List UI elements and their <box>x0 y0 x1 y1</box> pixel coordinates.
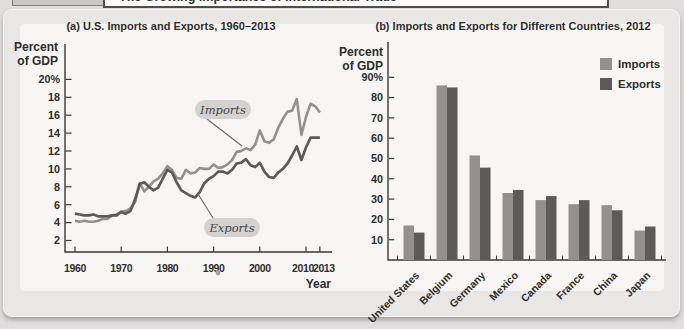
a-x-axis-label: Year <box>306 277 332 291</box>
country-label: Japan <box>622 269 652 299</box>
bar-imports-belgium <box>437 85 448 260</box>
legend-exports-swatch <box>600 78 612 90</box>
legend: Imports Exports <box>600 58 661 90</box>
bar-imports-china <box>602 205 613 260</box>
b-y-tick-label: 50 <box>371 152 383 164</box>
b-y-tick-label: 20 <box>371 213 383 225</box>
b-y-tick-label: 80 <box>371 91 383 103</box>
country-label: France <box>554 269 587 302</box>
country-label: Germany <box>447 269 488 310</box>
exports-line <box>75 138 320 217</box>
bar-exports-germany <box>480 168 491 260</box>
a-x-tick-label: 1970 <box>110 262 132 274</box>
bar-exports-china <box>612 210 623 260</box>
line-chart-us-imports-exports: Percent of GDP 20%1816141210864219601970… <box>0 36 342 298</box>
a-x-tick-label: 2013 <box>313 262 335 274</box>
a-y-tick-label: 16 <box>48 109 60 121</box>
bar-chart-countries-2012: Percent of GDP 90%8070605040302010United… <box>342 36 684 314</box>
a-y-tick-label: 20% <box>38 73 60 85</box>
b-axes <box>388 42 666 260</box>
b-y-tick-label: 10 <box>371 234 383 246</box>
exports-label-pill: Exports <box>204 218 260 237</box>
a-y-tick-label: 14 <box>48 127 60 139</box>
bar-imports-united-states <box>404 225 415 260</box>
panel-a-title: (a) U.S. Imports and Exports, 1960–2013 <box>0 20 342 32</box>
legend-exports-label: Exports <box>618 78 661 90</box>
a-y-axis-label-line1: Percent <box>14 40 58 54</box>
bar-imports-japan <box>635 231 646 260</box>
b-y-tick-label: 30 <box>371 193 383 205</box>
panel-b-title: (b) Imports and Exports for Different Co… <box>342 20 684 32</box>
a-axes <box>65 44 332 252</box>
figure-title: The Growing Importance of International … <box>119 0 397 4</box>
a-y-tick-label: 10 <box>48 163 60 175</box>
bar-imports-france <box>569 204 580 260</box>
b-y-tick-label: 60 <box>371 132 383 144</box>
a-x-tick-label: 1980 <box>157 262 179 274</box>
bar-exports-france <box>579 200 590 260</box>
exports-pill-text: Exports <box>208 221 254 235</box>
a-y-tick-label: 18 <box>48 91 60 103</box>
a-y-tick-label: 4 <box>54 216 60 228</box>
a-x-tick-label: 2000 <box>249 262 271 274</box>
a-y-tick-label: 6 <box>54 199 60 211</box>
bar-exports-united-states <box>414 233 425 260</box>
a-x-tick-label: 2010 <box>292 262 314 274</box>
a-x-tick-label: 1990 <box>203 262 225 274</box>
b-y-tick-label: 40 <box>371 173 383 185</box>
imports-label-pill: Imports <box>195 100 251 119</box>
a-plot-area: 20%1816141210864219601970198019902000201… <box>38 44 335 274</box>
a-x-tick-label: 1960 <box>64 262 86 274</box>
bar-imports-germany <box>470 155 481 260</box>
b-y-tick-label: 90% <box>361 71 383 83</box>
country-label: Canada <box>518 269 553 304</box>
figure-number-tab <box>12 0 104 6</box>
b-y-axis-label-line1: Percent <box>339 45 383 59</box>
imports-leader-line <box>207 119 242 146</box>
country-label: Mexico <box>487 269 521 303</box>
exports-leader-line <box>198 194 213 218</box>
country-label: China <box>590 269 619 298</box>
imports-line <box>75 99 320 222</box>
bar-exports-canada <box>546 196 557 260</box>
bar-exports-belgium <box>447 87 458 260</box>
legend-imports-swatch <box>600 58 612 70</box>
bar-imports-canada <box>536 200 547 260</box>
a-y-tick-label: 2 <box>54 234 60 246</box>
bar-exports-japan <box>645 227 656 260</box>
imports-pill-text: Imports <box>199 103 246 117</box>
figure-page: The Growing Importance of International … <box>0 0 684 329</box>
a-y-axis-label-line2: of GDP <box>17 54 58 68</box>
stray-mark <box>216 271 221 276</box>
bar-exports-mexico <box>513 190 524 260</box>
figure-title-bar: The Growing Importance of International … <box>103 0 609 8</box>
b-y-tick-label: 70 <box>371 112 383 124</box>
a-y-tick-label: 12 <box>48 145 60 157</box>
legend-imports-label: Imports <box>618 58 660 70</box>
a-y-tick-label: 8 <box>54 181 60 193</box>
bar-imports-mexico <box>503 193 514 260</box>
